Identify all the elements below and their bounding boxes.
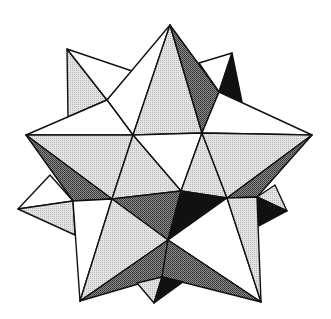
polyhedron-figure xyxy=(0,0,331,319)
facet-right-upper-white xyxy=(202,92,312,135)
stellated-polyhedron-drawing xyxy=(0,0,331,319)
facet-group xyxy=(18,25,312,303)
